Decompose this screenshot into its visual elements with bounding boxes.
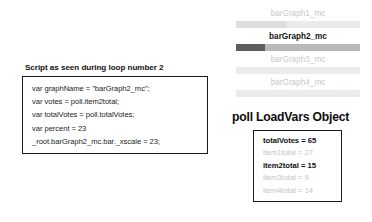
bargraph-track xyxy=(236,67,360,74)
bargraph-track xyxy=(236,90,360,97)
loadvars-panel: poll LoadVars Object totalVotes = 65 ite… xyxy=(230,110,370,202)
bargraph-fill xyxy=(236,21,287,28)
loadvars-line: item2total = 15 xyxy=(263,160,341,172)
bargraph-track xyxy=(236,44,360,51)
bargraph-label: barGraph2_mc xyxy=(236,31,360,42)
loadvars-line: item1total = 27 xyxy=(263,147,341,159)
loadvars-values-box: totalVotes = 65 item1total = 27 item2tot… xyxy=(253,130,342,202)
bargraph-label: barGraph3_mc xyxy=(236,54,360,65)
code-line: var graphName = "barGraph2_mc"; xyxy=(32,82,199,95)
bargraph-panel: barGraph1_mc barGraph2_mc barGraph3_mc b… xyxy=(236,8,360,100)
loadvars-panel-title: poll LoadVars Object xyxy=(232,110,370,124)
loadvars-line: item3total = 9 xyxy=(263,172,341,184)
bargraph-row: barGraph2_mc xyxy=(236,31,360,51)
code-line: _root.barGraph2_mc.bar._xscale = 23; xyxy=(32,135,199,148)
bargraph-row: barGraph3_mc xyxy=(236,54,360,74)
bargraph-label: barGraph1_mc xyxy=(236,8,360,19)
bargraph-track xyxy=(236,21,360,28)
bargraph-row: barGraph1_mc xyxy=(236,8,360,28)
code-line: var votes = poll.item2total; xyxy=(32,95,199,108)
code-line: var totalVotes = poll.totalVotes; xyxy=(32,108,199,121)
loadvars-line: item4total = 14 xyxy=(263,185,341,197)
bargraph-fill xyxy=(236,44,265,51)
code-line: var percent = 23 xyxy=(32,122,199,135)
bargraph-label: barGraph4_mc xyxy=(236,77,360,88)
script-code-box: var graphName = "barGraph2_mc"; var vote… xyxy=(22,76,208,154)
script-panel-title: Script as seen during loop number 2 xyxy=(25,63,212,72)
bargraph-row: barGraph4_mc xyxy=(236,77,360,97)
script-panel: Script as seen during loop number 2 var … xyxy=(22,63,212,154)
loadvars-line: totalVotes = 65 xyxy=(263,135,341,147)
